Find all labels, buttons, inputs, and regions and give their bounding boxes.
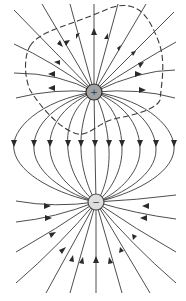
connecting-arrows (11, 140, 177, 147)
field-line-diagram: + − (0, 0, 186, 301)
plus-icon: + (90, 87, 98, 97)
incoming-arrows (44, 203, 149, 264)
arrow-icon (57, 40, 63, 47)
negative-charge: − (88, 194, 104, 210)
positive-charge: + (86, 84, 102, 100)
minus-icon: − (92, 197, 100, 207)
